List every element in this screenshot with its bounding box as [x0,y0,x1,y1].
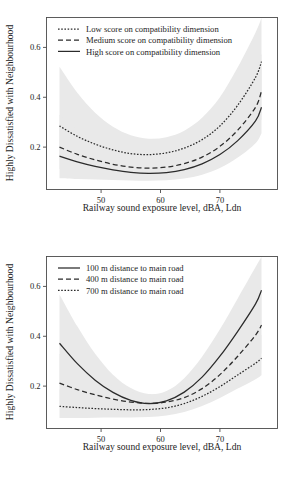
legend-label: 700 m distance to main road [86,286,184,296]
y-tick-label: 0.4 [30,92,41,102]
y-tick-label: 0.2 [30,142,41,152]
legend-label: 400 m distance to main road [86,274,184,284]
y-axis-title: Highly Dissatisfied with Neighbourhood [4,264,15,421]
chart-svg-distance: 506070 0.20.40.6 Railway sound exposure … [0,239,297,479]
figure-stack: 506070 0.20.40.6 Railway sound exposure … [0,0,297,479]
chart-legend: Low score on compatibility dimensionMedi… [58,24,233,56]
y-axis-ticks: 0.20.40.6 [30,281,47,391]
legend-label: Medium score on compatibility dimension [86,35,233,45]
y-tick-label: 0.6 [30,42,41,52]
y-tick-label: 0.6 [30,281,41,291]
y-axis-ticks: 0.20.40.6 [30,42,47,152]
legend-label: High score on compatibility dimension [86,47,221,57]
y-axis-title: Highly Dissatisfied with Neighbourhood [4,25,15,182]
legend-label: Low score on compatibility dimension [86,24,219,34]
y-tick-label: 0.4 [30,331,41,341]
chart-legend: 100 m distance to main road400 m distanc… [58,263,184,295]
chart-panel-compatibility: 506070 0.20.40.6 Railway sound exposure … [0,0,297,239]
legend-label: 100 m distance to main road [86,263,184,273]
x-axis-title: Railway sound exposure level, dBA, Ldn [83,202,242,213]
chart-panel-distance: 506070 0.20.40.6 Railway sound exposure … [0,239,297,479]
x-axis-title: Railway sound exposure level, dBA, Ldn [83,441,242,452]
chart-svg-compatibility: 506070 0.20.40.6 Railway sound exposure … [0,0,297,239]
y-tick-label: 0.2 [30,381,41,391]
